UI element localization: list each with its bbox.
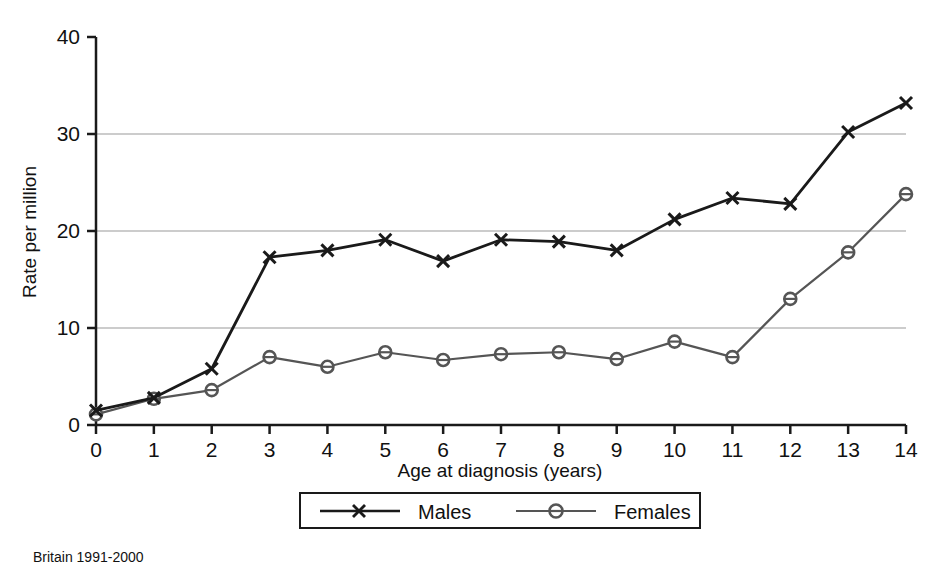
marker-females-age-12 [784, 293, 797, 305]
y-tick-label-10: 10 [57, 316, 80, 339]
x-tick-label-2: 2 [206, 438, 218, 461]
x-tick-label-3: 3 [264, 438, 276, 461]
marker-females-age-3 [263, 351, 276, 363]
y-tick-label-20: 20 [57, 219, 80, 242]
legend-females-label: Females [614, 501, 691, 523]
marker-females-age-9 [610, 353, 623, 365]
x-tick-label-12: 12 [779, 438, 802, 461]
marker-females-age-8 [552, 346, 565, 358]
marker-females-age-7 [495, 348, 508, 360]
x-axis-tick-labels: 01234567891011121314 [90, 438, 918, 461]
x-tick-label-7: 7 [495, 438, 507, 461]
x-tick-label-4: 4 [322, 438, 334, 461]
chart-background [0, 0, 929, 578]
x-tick-label-0: 0 [90, 438, 102, 461]
y-tick-label-0: 0 [68, 413, 80, 436]
marker-females-age-11 [726, 351, 739, 363]
x-tick-label-11: 11 [722, 438, 744, 461]
x-tick-label-1: 1 [148, 438, 160, 461]
x-tick-label-6: 6 [437, 438, 449, 461]
marker-females-age-6 [437, 354, 450, 366]
x-tick-label-14: 14 [894, 438, 918, 461]
x-tick-label-13: 13 [836, 438, 859, 461]
marker-females-age-2 [205, 384, 218, 396]
chart-figure: 010203040 01234567891011121314 Rate per … [0, 0, 929, 578]
x-tick-label-5: 5 [379, 438, 391, 461]
figure-caption: Britain 1991-2000 [33, 549, 144, 565]
marker-females-age-14 [900, 188, 913, 200]
x-tick-label-9: 9 [611, 438, 623, 461]
marker-females-age-4 [321, 361, 334, 373]
line-chart: 010203040 01234567891011121314 Rate per … [0, 0, 929, 578]
y-tick-label-30: 30 [57, 122, 80, 145]
chart-legend: Males Females [300, 493, 700, 528]
marker-females-age-10 [668, 336, 681, 348]
marker-females-age-5 [379, 346, 392, 358]
y-axis-title: Rate per million [19, 166, 40, 298]
x-tick-label-8: 8 [553, 438, 565, 461]
marker-females-age-13 [842, 246, 855, 258]
y-tick-label-40: 40 [57, 25, 80, 48]
x-tick-label-10: 10 [663, 438, 686, 461]
x-axis-title: Age at diagnosis (years) [398, 460, 603, 481]
legend-males-label: Males [418, 501, 471, 523]
